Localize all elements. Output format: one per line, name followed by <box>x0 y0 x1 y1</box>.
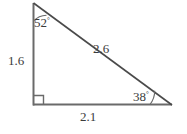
angle-label-right: 38° <box>133 90 149 103</box>
angle-arc-right-icon <box>150 91 155 105</box>
degree-symbol-icon: ° <box>47 16 50 24</box>
side-label-left: 1.6 <box>8 54 24 67</box>
angle-label-apex: 52° <box>34 16 50 29</box>
triangle-figure: 52° 38° 1.6 2.6 2.1 <box>0 0 187 134</box>
side-label-hypotenuse: 2.6 <box>93 42 109 55</box>
degree-symbol-icon: ° <box>146 90 149 98</box>
side-label-base: 2.1 <box>80 110 96 123</box>
angle-label-apex-value: 52 <box>34 15 47 30</box>
angle-label-right-value: 38 <box>133 89 146 104</box>
right-angle-marker-icon <box>34 96 44 105</box>
